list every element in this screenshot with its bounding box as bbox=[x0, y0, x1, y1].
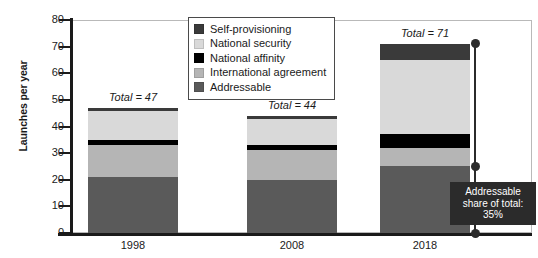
legend-swatch-icon bbox=[194, 82, 204, 92]
y-axis-tick-label: 0 bbox=[24, 226, 64, 238]
callout-line-3: 35% bbox=[456, 209, 530, 221]
callout-line-1: Addressable bbox=[456, 186, 530, 198]
legend: Self-provisioningNational securityNation… bbox=[188, 17, 335, 100]
legend-item-addressable: Addressable bbox=[194, 80, 326, 95]
total-label-1998: Total = 47 bbox=[73, 91, 193, 103]
bar-segment-international-agreement bbox=[88, 145, 178, 177]
y-axis-tick-label: 70 bbox=[24, 40, 64, 52]
bar-segment-national-security bbox=[247, 119, 337, 146]
bar-segment-national-affinity bbox=[88, 140, 178, 145]
bar-1998 bbox=[88, 20, 178, 233]
legend-label: National security bbox=[210, 38, 291, 49]
y-axis-tick-label: 10 bbox=[24, 199, 64, 211]
legend-label: Addressable bbox=[210, 82, 271, 93]
legend-swatch-icon bbox=[194, 53, 204, 63]
callout-line-2: share of total: bbox=[456, 198, 530, 210]
bar-segment-international-agreement bbox=[247, 150, 337, 179]
total-label-2008: Total = 44 bbox=[232, 99, 352, 111]
y-axis-tick-label: 20 bbox=[24, 173, 64, 185]
y-axis-tick-label: 80 bbox=[24, 13, 64, 25]
legend-item-international-agreement: International agreement bbox=[194, 66, 326, 81]
bar-segment-national-affinity bbox=[380, 134, 470, 147]
legend-label: National affinity bbox=[210, 53, 285, 64]
y-axis-tick-label: 30 bbox=[24, 146, 64, 158]
legend-swatch-icon bbox=[194, 39, 204, 49]
y-axis-tick-label: 50 bbox=[24, 93, 64, 105]
total-label-2018: Total = 71 bbox=[365, 27, 485, 39]
bar-segment-addressable bbox=[247, 180, 337, 233]
bar-segment-national-security bbox=[88, 111, 178, 140]
y-axis-tick-label: 40 bbox=[24, 120, 64, 132]
x-axis-label-1998: 1998 bbox=[73, 239, 193, 251]
legend-label: Self-provisioning bbox=[210, 24, 291, 35]
legend-swatch-icon bbox=[194, 68, 204, 78]
bar-segment-self-provisioning bbox=[380, 44, 470, 60]
bracket-dot bbox=[471, 162, 480, 171]
addressable-share-callout: Addressableshare of total:35% bbox=[450, 182, 536, 225]
bracket-dot bbox=[471, 229, 480, 238]
legend-swatch-icon bbox=[194, 24, 204, 34]
bar-segment-self-provisioning bbox=[247, 116, 337, 119]
y-axis-tick-label: 60 bbox=[24, 66, 64, 78]
x-axis-label-2008: 2008 bbox=[232, 239, 352, 251]
legend-item-national-affinity: National affinity bbox=[194, 51, 326, 66]
x-axis-line bbox=[58, 233, 532, 236]
bar-segment-national-affinity bbox=[247, 145, 337, 150]
x-axis-label-2018: 2018 bbox=[365, 239, 485, 251]
legend-label: International agreement bbox=[210, 67, 326, 78]
stacked-bar-chart: Launches per year 01020304050607080 1998… bbox=[0, 0, 538, 258]
y-axis-line bbox=[70, 18, 73, 235]
bar-segment-self-provisioning bbox=[88, 108, 178, 111]
legend-item-national-security: National security bbox=[194, 37, 326, 52]
legend-item-self-provisioning: Self-provisioning bbox=[194, 22, 326, 37]
bracket-dot bbox=[471, 39, 480, 48]
bar-segment-national-security bbox=[380, 60, 470, 135]
bar-segment-international-agreement bbox=[380, 148, 470, 167]
bar-segment-addressable bbox=[88, 177, 178, 233]
